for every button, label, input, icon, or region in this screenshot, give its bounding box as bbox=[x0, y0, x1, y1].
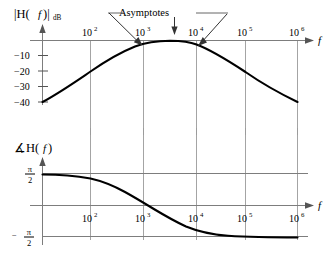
mag-xtick-mantissa-0: 10 bbox=[82, 27, 92, 38]
phase-ylabel-close: ) bbox=[48, 141, 52, 155]
phase-ylabel-angle: ∡ bbox=[14, 141, 26, 155]
magnitude-plot: |H( f )| dB f −10 −20 −30 −40 10 2 10 3 … bbox=[14, 7, 323, 135]
phase-xtick-mantissa-1: 10 bbox=[135, 213, 145, 224]
magnitude-x-axis-arrowhead bbox=[305, 37, 314, 44]
phase-ytick-top-denominator: 2 bbox=[28, 175, 32, 185]
mag-xtick-exponent-0: 2 bbox=[94, 25, 98, 32]
phase-x-axis-arrowhead bbox=[305, 202, 314, 209]
mag-ylabel-main: |H( bbox=[14, 7, 30, 21]
mag-xtick-1e6: 10 6 bbox=[289, 25, 305, 38]
phase-x-axis-label: f bbox=[318, 199, 323, 211]
mag-xtick-1e3: 10 3 bbox=[135, 25, 151, 38]
mag-xtick-1e4: 10 4 bbox=[188, 25, 204, 38]
magnitude-x-tick-labels: 10 2 10 3 10 4 10 5 10 6 bbox=[82, 25, 305, 38]
magnitude-y-axis-arrowhead bbox=[39, 24, 45, 33]
phase-ytick-neg-pi-over-2: − π 2 bbox=[12, 227, 34, 248]
phase-ytick-top-numerator: π bbox=[28, 164, 33, 174]
mag-xtick-mantissa-4: 10 bbox=[289, 27, 299, 38]
mag-xtick-exponent-3: 5 bbox=[249, 25, 253, 32]
mag-ytick-label-3: −40 bbox=[14, 97, 30, 108]
phase-xtick-1e6: 10 6 bbox=[289, 211, 305, 224]
phase-xtick-mantissa-3: 10 bbox=[237, 213, 247, 224]
asymptote-arrow-right-shaft bbox=[201, 14, 227, 43]
phase-xtick-1e5: 10 5 bbox=[237, 211, 253, 224]
mag-xtick-exponent-1: 3 bbox=[147, 25, 151, 32]
magnitude-y-axis-label: |H( f )| dB bbox=[14, 7, 62, 22]
magnitude-gridlines bbox=[91, 40, 298, 135]
phase-ytick-bottom-sign: − bbox=[12, 230, 17, 240]
mag-xtick-exponent-2: 4 bbox=[200, 25, 204, 32]
mag-xtick-1e5: 10 5 bbox=[237, 25, 253, 38]
phase-xtick-1e2: 10 2 bbox=[82, 211, 98, 224]
mag-ylabel-sub: dB bbox=[53, 14, 62, 22]
phase-ylabel-main: H( bbox=[26, 141, 39, 155]
phase-xtick-1e4: 10 4 bbox=[188, 211, 204, 224]
phase-x-tick-labels: 10 2 10 3 10 4 10 5 10 6 bbox=[82, 211, 305, 224]
mag-ytick-label-2: −30 bbox=[14, 81, 30, 92]
phase-xtick-exponent-1: 3 bbox=[147, 211, 151, 218]
phase-xtick-exponent-0: 2 bbox=[94, 211, 98, 218]
mag-xtick-exponent-4: 6 bbox=[301, 25, 305, 32]
mag-ylabel-close: )| bbox=[43, 7, 50, 21]
phase-xtick-mantissa-2: 10 bbox=[188, 213, 198, 224]
magnitude-y-tick-labels: −10 −20 −30 −40 bbox=[14, 50, 30, 108]
phase-xtick-exponent-2: 4 bbox=[200, 211, 204, 218]
mag-xtick-1e2: 10 2 bbox=[82, 25, 98, 38]
magnitude-response-curve bbox=[43, 41, 298, 102]
phase-xtick-1e3: 10 3 bbox=[135, 211, 151, 224]
magnitude-x-axis-label: f bbox=[318, 34, 323, 46]
mag-xtick-mantissa-1: 10 bbox=[135, 27, 145, 38]
mag-ytick-label-0: −10 bbox=[14, 50, 30, 61]
phase-ytick-bottom-denominator: 2 bbox=[27, 238, 31, 248]
mag-xtick-mantissa-3: 10 bbox=[237, 27, 247, 38]
phase-xtick-mantissa-0: 10 bbox=[82, 213, 92, 224]
phase-xtick-mantissa-4: 10 bbox=[289, 213, 299, 224]
bode-plot-svg: |H( f )| dB f −10 −20 −30 −40 10 2 10 3 … bbox=[0, 0, 332, 265]
phase-xtick-exponent-3: 5 bbox=[249, 211, 253, 218]
phase-y-axis-label: ∡ H( f ) bbox=[14, 141, 52, 155]
asymptote-arrow-center-head bbox=[171, 27, 177, 36]
phase-y-axis-arrowhead bbox=[39, 157, 45, 166]
asymptotes-label: Asymptotes bbox=[119, 7, 169, 18]
phase-plot: ∡ H( f ) f π 2 − π 2 10 2 10 bbox=[12, 128, 323, 248]
phase-ytick-bottom-numerator: π bbox=[27, 227, 32, 237]
bode-plot-figure: |H( f )| dB f −10 −20 −30 −40 10 2 10 3 … bbox=[0, 0, 332, 265]
mag-xtick-mantissa-2: 10 bbox=[188, 27, 198, 38]
phase-ytick-pi-over-2: π 2 bbox=[25, 164, 35, 185]
phase-xtick-exponent-4: 6 bbox=[301, 211, 305, 218]
mag-ytick-label-1: −20 bbox=[14, 66, 30, 77]
